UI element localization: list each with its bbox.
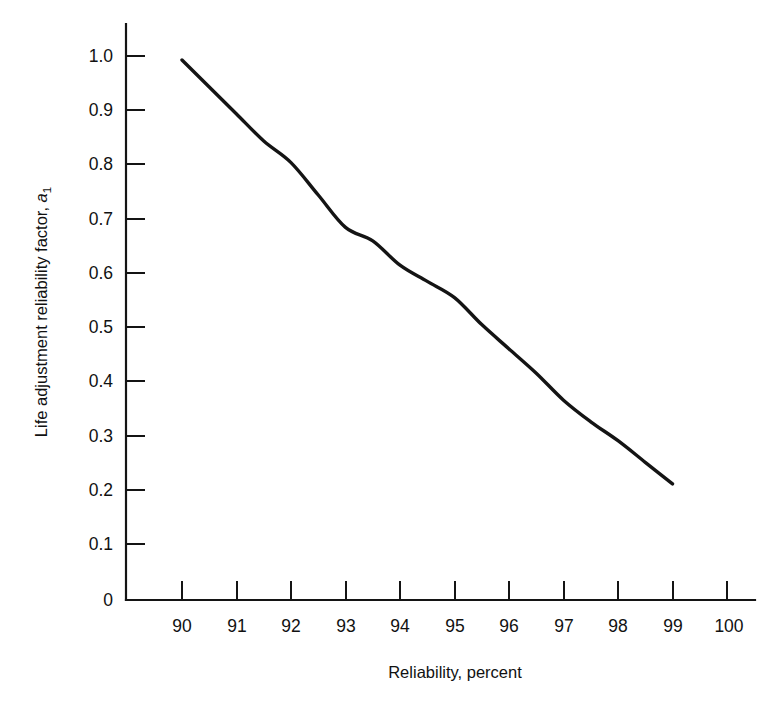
x-tick-label: 90 (172, 616, 192, 636)
y-axis-tick-labels: 1.0 0.9 0.8 0.7 0.6 0.5 0.4 0.3 0.2 0.1 … (89, 46, 114, 610)
x-tick-label: 97 (554, 616, 573, 636)
x-tick-label: 96 (499, 616, 518, 636)
x-tick-label: 94 (390, 616, 410, 636)
svg-text:Life adjustment reliability fa: Life adjustment reliability factor, a1 (32, 187, 53, 437)
chart-figure: 1.0 0.9 0.8 0.7 0.6 0.5 0.4 0.3 0.2 0.1 … (0, 0, 780, 706)
reliability-curve (182, 60, 673, 484)
reliability-factor-line-chart: 1.0 0.9 0.8 0.7 0.6 0.5 0.4 0.3 0.2 0.1 … (0, 0, 780, 706)
y-tick-label: 0.9 (89, 100, 113, 120)
y-tick-label: 0.1 (89, 534, 113, 554)
x-tick-label: 93 (336, 616, 355, 636)
x-axis-tick-labels: 90 91 92 93 94 95 96 97 98 99 100 (172, 616, 744, 636)
x-tick-label: 91 (227, 616, 246, 636)
y-tick-label: 0.7 (89, 209, 113, 229)
y-axis-title-symbol: a (32, 193, 50, 202)
x-tick-label: 92 (281, 616, 300, 636)
y-tick-label: 0.4 (89, 371, 114, 391)
y-tick-label: 0.6 (89, 263, 113, 283)
x-tick-label: 100 (714, 616, 743, 636)
y-tick-label: 0.2 (89, 480, 113, 500)
x-axis-title: Reliability, percent (388, 663, 522, 681)
y-tick-label: 0.5 (89, 317, 113, 337)
y-axis-title-subscript: 1 (41, 187, 53, 193)
y-axis-title-main: Life adjustment reliability factor, (32, 202, 50, 437)
x-axis-ticks (182, 581, 727, 600)
x-tick-label: 95 (445, 616, 464, 636)
y-tick-label: 1.0 (89, 46, 114, 66)
y-tick-label: 0 (103, 590, 113, 610)
x-tick-label: 99 (663, 616, 682, 636)
y-axis-ticks (126, 56, 145, 544)
y-axis-title: Life adjustment reliability factor, a1 (32, 187, 53, 437)
y-tick-label: 0.8 (89, 154, 113, 174)
y-tick-label: 0.3 (89, 426, 113, 446)
x-tick-label: 98 (608, 616, 627, 636)
